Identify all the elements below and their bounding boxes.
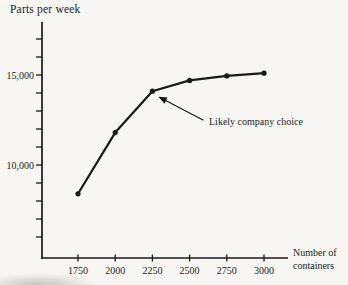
x-axis-title: Number of containers <box>293 247 345 272</box>
x-tick-label: 2250 <box>142 265 162 276</box>
scanned-chart-page: Parts per week 15,00010,0001750200022502… <box>0 0 348 285</box>
data-point <box>224 73 229 78</box>
y-tick-label: 15,000 <box>7 70 35 81</box>
x-tick-label: 2750 <box>217 265 237 276</box>
data-point <box>113 130 118 135</box>
data-line <box>78 73 264 194</box>
x-tick-label: 1750 <box>68 265 88 276</box>
data-point <box>150 89 155 94</box>
x-tick-label: 3000 <box>254 265 274 276</box>
y-tick-label: 10,000 <box>7 160 35 171</box>
line-chart: 15,00010,000175020002250250027503000 <box>0 0 348 285</box>
annotation-arrow <box>159 97 203 120</box>
data-point <box>75 191 80 196</box>
data-point <box>261 71 266 76</box>
data-point <box>187 78 192 83</box>
x-tick-label: 2500 <box>180 265 200 276</box>
x-tick-label: 2000 <box>105 265 125 276</box>
annotation-likely-company-choice: Likely company choice <box>209 116 303 127</box>
